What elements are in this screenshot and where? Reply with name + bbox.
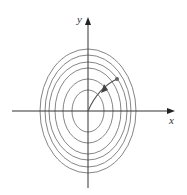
level-curve-diagram: x y (0, 0, 187, 195)
y-axis-arrow-icon (85, 17, 91, 25)
start-point (115, 77, 119, 81)
y-axis-label: y (76, 13, 82, 25)
x-axis-label: x (168, 114, 174, 126)
